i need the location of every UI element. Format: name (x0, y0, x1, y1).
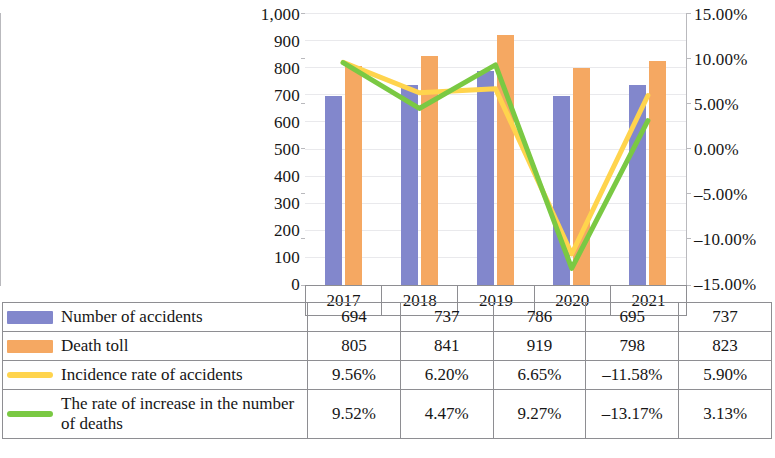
left-axis-tick: 900 (236, 33, 300, 50)
line-layer (305, 13, 686, 285)
table-cell-value: 9.56% (308, 361, 401, 390)
legend-label: Number of accidents (61, 307, 203, 327)
legend-label: The rate of increase in the number of de… (61, 394, 307, 434)
left-axis-tick: 600 (236, 114, 300, 131)
right-axis-tick: 0.00% (694, 141, 774, 158)
combo-chart-figure: 1,000 900 800 700 600 500 400 300 200 10… (0, 0, 775, 458)
legend-cell: The rate of increase in the number of de… (3, 390, 308, 439)
left-axis-tick: 800 (236, 60, 300, 77)
table-cell-value: 737 (400, 303, 493, 332)
legend-label: Incidence rate of accidents (61, 365, 243, 385)
right-axis-labels: 15.00% 10.00% 5.00% 0.00% –5.00% –10.00%… (694, 0, 774, 302)
left-axis-tick: 1,000 (236, 6, 300, 23)
table-cell-value: 786 (493, 303, 586, 332)
right-axis-tick: 5.00% (694, 96, 774, 113)
table-cell-value: –11.58% (586, 361, 679, 390)
left-axis-tick: 300 (236, 195, 300, 212)
left-axis-tick: 500 (236, 141, 300, 158)
left-axis-tick: 100 (236, 249, 300, 266)
right-axis-tick: –10.00% (694, 231, 774, 248)
table-cell-value: 737 (679, 303, 772, 332)
left-axis-labels: 1,000 900 800 700 600 500 400 300 200 10… (236, 0, 300, 302)
table-cell-value: 9.27% (493, 390, 586, 439)
legend-swatch-death-toll (7, 340, 53, 353)
left-axis-tick: 700 (236, 87, 300, 104)
legend-cell: Incidence rate of accidents (3, 361, 308, 390)
legend-swatch-number-of-accidents (7, 311, 53, 324)
left-axis-spine (0, 13, 1, 286)
table-cell-value: –13.17% (586, 390, 679, 439)
left-axis-tick: 200 (236, 222, 300, 239)
data-table-body: Number of accidents694737786695737Death … (3, 303, 772, 439)
right-axis-tick: –15.00% (694, 276, 774, 293)
right-axis-tick: 15.00% (694, 6, 774, 23)
legend-label: Death toll (61, 336, 129, 356)
table-cell-value: 6.65% (493, 361, 586, 390)
legend-cell: Number of accidents (3, 303, 308, 332)
table-cell-value: 805 (308, 332, 401, 361)
table-cell-value: 841 (400, 332, 493, 361)
table-cell-value: 823 (679, 332, 772, 361)
table-cell-value: 694 (308, 303, 401, 332)
left-axis-tick: 400 (236, 168, 300, 185)
table-cell-value: 3.13% (679, 390, 772, 439)
right-axis-tick: 10.00% (694, 51, 774, 68)
table-row: Death toll805841919798823 (3, 332, 772, 361)
table-cell-value: 695 (586, 303, 679, 332)
table-cell-value: 9.52% (308, 390, 401, 439)
table-cell-value: 5.90% (679, 361, 772, 390)
table-cell-value: 919 (493, 332, 586, 361)
table-row: The rate of increase in the number of de… (3, 390, 772, 439)
table-row: Incidence rate of accidents9.56%6.20%6.6… (3, 361, 772, 390)
table-cell-value: 4.47% (400, 390, 493, 439)
table-row: Number of accidents694737786695737 (3, 303, 772, 332)
legend-swatch-incidence-rate (7, 372, 53, 378)
data-table: Number of accidents694737786695737Death … (2, 302, 772, 439)
left-axis-tick: 0 (236, 276, 300, 293)
right-axis-spine (686, 13, 687, 286)
legend-cell: Death toll (3, 332, 308, 361)
table-cell-value: 6.20% (400, 361, 493, 390)
legend-swatch-death-increase-rate (7, 411, 53, 417)
plot-area: 1,000 900 800 700 600 500 400 300 200 10… (0, 0, 775, 302)
table-cell-value: 798 (586, 332, 679, 361)
right-axis-tick: –5.00% (694, 186, 774, 203)
